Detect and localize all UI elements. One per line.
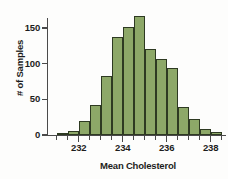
y-tick-mark (42, 99, 47, 100)
x-axis-label: Mean Cholesterol (48, 160, 228, 171)
x-tick-minor (56, 136, 57, 140)
x-tick-label: 234 (107, 142, 139, 153)
histogram-bar (90, 105, 101, 135)
histogram-bar (112, 37, 123, 135)
y-tick-label-wrap: 100 (0, 58, 40, 70)
histogram-bar (57, 133, 68, 135)
x-tick-minor (89, 136, 90, 140)
y-tick-label: 100 (6, 58, 40, 69)
y-tick-mark (42, 134, 47, 135)
y-tick-label: 150 (6, 22, 40, 33)
y-tick-label: 0 (6, 129, 40, 140)
x-tick-label: 238 (195, 142, 227, 153)
histogram-bar (156, 59, 167, 135)
histogram-bar (200, 129, 211, 135)
histogram-bar (167, 68, 178, 135)
x-tick-minor (199, 136, 200, 140)
x-tick-minor (221, 136, 222, 140)
y-tick-label-wrap: 0 (0, 129, 40, 141)
x-tick-minor (111, 136, 112, 140)
histogram-bar (123, 27, 134, 135)
x-tick-minor (67, 136, 68, 140)
x-tick-minor (177, 136, 178, 140)
x-tick-label: 236 (151, 142, 183, 153)
histogram-bar (68, 131, 79, 135)
y-tick-label-wrap: 150 (0, 22, 40, 34)
y-tick-label: 50 (6, 93, 40, 104)
histogram-bar (145, 49, 156, 135)
y-tick-mark (42, 27, 47, 28)
histogram-bar (178, 107, 189, 135)
x-tick-minor (100, 136, 101, 140)
histogram-figure: # of Samples 050100150 232234236238 Mean… (0, 0, 228, 179)
y-tick-label-wrap: 50 (0, 93, 40, 105)
histogram-bar (101, 76, 112, 135)
y-tick-mark (42, 63, 47, 64)
histogram-bar (79, 121, 90, 135)
histogram-bar (211, 132, 222, 135)
x-tick-minor (155, 136, 156, 140)
histogram-bar (189, 119, 200, 135)
histogram-bars (48, 8, 226, 135)
x-tick-minor (133, 136, 134, 140)
x-tick-minor (188, 136, 189, 140)
histogram-bar (134, 16, 145, 135)
x-tick-label: 232 (63, 142, 95, 153)
x-tick-minor (144, 136, 145, 140)
